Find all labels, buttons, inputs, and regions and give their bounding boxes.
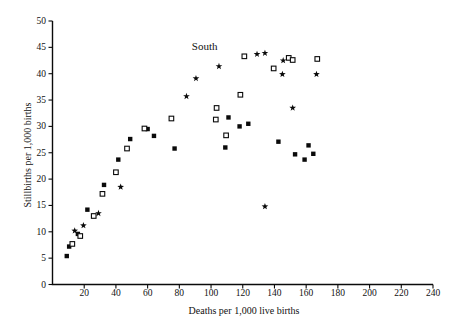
y-tick-label: 20 bbox=[37, 174, 47, 184]
y-tick-label: 50 bbox=[37, 16, 47, 26]
x-tick-label: 240 bbox=[426, 288, 441, 298]
open-square-marker bbox=[100, 192, 105, 197]
filled-square-marker bbox=[302, 157, 306, 161]
x-tick-label: 40 bbox=[111, 288, 121, 298]
x-tick-label: 160 bbox=[299, 288, 314, 298]
filled-square-marker bbox=[116, 157, 120, 161]
open-square-marker bbox=[114, 170, 119, 175]
x-tick-label: 220 bbox=[394, 288, 409, 298]
open-square-marker bbox=[169, 116, 174, 121]
star-marker bbox=[280, 57, 287, 63]
x-tick-label: 200 bbox=[362, 288, 377, 298]
star-marker bbox=[279, 71, 286, 77]
scatter-plot-canvas: 2040608010012014016018020022024005101520… bbox=[0, 0, 463, 332]
filled-square-marker bbox=[311, 152, 315, 156]
data-points bbox=[65, 50, 320, 259]
open-square-marker bbox=[214, 106, 219, 111]
y-tick-label: 30 bbox=[37, 121, 47, 131]
star-marker bbox=[117, 184, 124, 190]
filled-square-marker bbox=[172, 146, 176, 150]
open-square-marker bbox=[125, 146, 130, 151]
filled-square-marker bbox=[128, 137, 132, 141]
open-square-marker bbox=[70, 242, 75, 247]
open-square-marker bbox=[271, 66, 276, 71]
open-square-marker bbox=[242, 54, 247, 59]
star-marker bbox=[80, 222, 87, 228]
y-tick-label: 5 bbox=[41, 253, 46, 263]
filled-square-marker bbox=[223, 145, 227, 149]
open-square-marker bbox=[238, 92, 243, 97]
star-marker bbox=[262, 203, 269, 209]
y-axis-title: Stillbirths per 1,000 births bbox=[22, 102, 33, 207]
x-tick-label: 60 bbox=[143, 288, 153, 298]
star-marker bbox=[216, 63, 223, 69]
y-tick-label: 0 bbox=[41, 280, 46, 290]
open-square-marker bbox=[224, 133, 229, 138]
x-tick-label: 120 bbox=[236, 288, 251, 298]
star-marker bbox=[262, 50, 269, 56]
y-tick-label: 35 bbox=[37, 95, 47, 105]
filled-square-marker bbox=[152, 134, 156, 138]
scatter-plot-figure: 2040608010012014016018020022024005101520… bbox=[0, 0, 463, 332]
filled-square-marker bbox=[246, 122, 250, 126]
filled-square-marker bbox=[65, 254, 69, 258]
x-tick-label: 20 bbox=[79, 288, 89, 298]
star-marker bbox=[183, 93, 190, 99]
open-square-marker bbox=[78, 234, 83, 239]
open-square-marker bbox=[142, 126, 147, 131]
filled-square-marker bbox=[85, 207, 89, 211]
open-square-marker bbox=[213, 117, 218, 122]
star-marker bbox=[289, 104, 296, 110]
filled-square-marker bbox=[293, 152, 297, 156]
axis-tick-labels: 2040608010012014016018020022024005101520… bbox=[37, 16, 441, 298]
axes bbox=[53, 21, 434, 285]
y-tick-label: 10 bbox=[37, 227, 47, 237]
filled-square-marker bbox=[276, 139, 280, 143]
y-tick-label: 25 bbox=[37, 148, 47, 158]
y-tick-label: 40 bbox=[37, 69, 47, 79]
x-tick-label: 80 bbox=[175, 288, 185, 298]
x-axis-title: Deaths per 1,000 live births bbox=[189, 305, 300, 316]
open-square-marker bbox=[91, 214, 96, 219]
filled-square-marker bbox=[306, 143, 310, 147]
star-marker bbox=[254, 51, 261, 57]
filled-square-marker bbox=[102, 183, 106, 187]
open-square-marker bbox=[290, 58, 295, 63]
filled-square-marker bbox=[237, 124, 241, 128]
region-annotation: South bbox=[192, 40, 218, 52]
axis-frame bbox=[53, 21, 434, 285]
axis-ticks bbox=[49, 21, 434, 289]
open-square-marker bbox=[315, 57, 320, 62]
y-tick-label: 15 bbox=[37, 200, 47, 210]
filled-square-marker bbox=[226, 115, 230, 119]
x-tick-label: 180 bbox=[331, 288, 346, 298]
star-marker bbox=[313, 71, 320, 77]
x-tick-label: 140 bbox=[267, 288, 282, 298]
y-tick-label: 45 bbox=[37, 42, 47, 52]
x-tick-label: 100 bbox=[204, 288, 219, 298]
star-marker bbox=[193, 75, 200, 81]
